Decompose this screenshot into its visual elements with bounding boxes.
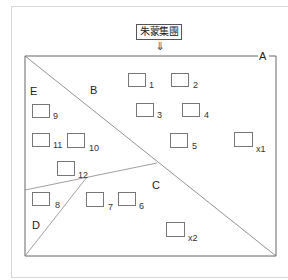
box-x1: [234, 132, 253, 147]
region-label-a: A: [259, 51, 266, 62]
box-11: [32, 133, 50, 147]
box-label-9: 9: [53, 112, 58, 121]
box-10: [67, 133, 85, 148]
box-label-6: 6: [139, 202, 144, 211]
box-5: [170, 133, 188, 148]
box-label-5: 5: [192, 142, 197, 151]
box-label-x2: x2: [188, 234, 198, 243]
box-6: [118, 192, 136, 206]
box-label-2: 2: [193, 81, 198, 90]
box-label-x1: x1: [256, 145, 266, 154]
box-label-12: 12: [78, 171, 88, 180]
box-2: [171, 73, 189, 87]
box-12: [57, 161, 75, 176]
boundary-line-d-c: [25, 177, 87, 256]
box-3: [136, 103, 154, 117]
boundary-line-e-d: [25, 163, 157, 190]
region-label-b: B: [90, 85, 97, 96]
box-9: [32, 104, 50, 118]
box-label-10: 10: [89, 144, 99, 153]
box-label-1: 1: [149, 81, 154, 90]
box-8: [32, 192, 50, 206]
box-4: [182, 103, 200, 117]
box-label-4: 4: [204, 111, 209, 120]
box-label-11: 11: [53, 141, 62, 150]
box-x2: [166, 222, 185, 237]
region-label-c: C: [152, 180, 160, 191]
box-7: [86, 192, 104, 207]
region-label-e: E: [30, 86, 37, 97]
box-label-7: 7: [108, 203, 113, 212]
box-label-3: 3: [157, 111, 162, 120]
region-label-d: D: [32, 220, 40, 231]
box-1: [128, 73, 146, 87]
box-label-8: 8: [55, 201, 60, 210]
